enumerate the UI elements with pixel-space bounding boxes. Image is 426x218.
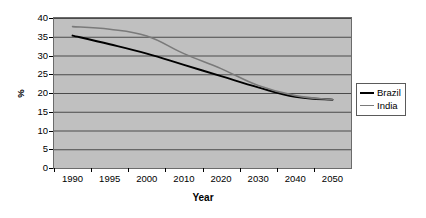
line-chart: % 0510152025303540 199019952000201020202… [0,0,426,218]
legend-label: India [377,99,398,112]
legend-line-swatch [360,105,374,107]
y-tick-label: 40 [22,12,48,23]
x-tick-mark [91,168,92,172]
x-tick-mark [54,168,55,172]
legend-line-swatch [360,92,374,94]
x-tick-mark [165,168,166,172]
x-tick-label: 1995 [90,173,130,184]
x-tick-label: 2020 [201,173,241,184]
plot-area [53,17,352,169]
plot-svg [54,18,351,168]
y-tick-label: 10 [22,125,48,136]
x-tick-mark [203,168,204,172]
y-tick-label: 5 [22,143,48,154]
x-tick-mark [128,168,129,172]
series-line [73,36,333,100]
y-tick-label: 0 [22,162,48,173]
y-tick-label: 15 [22,106,48,117]
legend-item[interactable]: Brazil [360,86,401,99]
x-tick-label: 1990 [53,173,93,184]
x-tick-mark [277,168,278,172]
y-tick-label: 20 [22,87,48,98]
legend-item[interactable]: India [360,99,401,112]
x-axis-title: Year [53,192,353,203]
x-tick-mark [314,168,315,172]
x-tick-mark [240,168,241,172]
x-tick-label: 2010 [164,173,204,184]
y-tick-label: 35 [22,31,48,42]
y-tick-label: 25 [22,68,48,79]
x-tick-label: 2050 [312,173,352,184]
x-tick-label: 2040 [275,173,315,184]
y-tick-label: 30 [22,50,48,61]
x-tick-label: 2000 [127,173,167,184]
x-tick-label: 2030 [238,173,278,184]
legend: BrazilIndia [356,83,406,116]
legend-label: Brazil [377,86,401,99]
